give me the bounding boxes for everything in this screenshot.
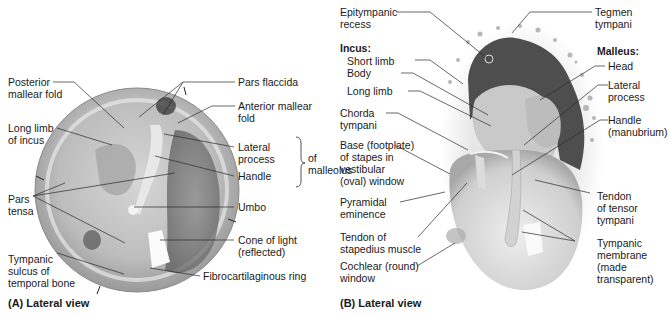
label-line: tympani: [595, 18, 632, 30]
label-cochlear-window: Cochlear (round) window: [340, 260, 419, 284]
label-epitympanic-recess: Epitympanic recess: [340, 6, 397, 30]
label-line: Epitympanic: [340, 6, 397, 18]
label-head: Head: [608, 60, 633, 72]
label-tegmen-tympani: Tegmen tympani: [595, 6, 632, 30]
caption-a: (A) Lateral view: [8, 297, 89, 309]
label-tympanic-membrane: Tympanic membrane (made transparent): [597, 237, 654, 285]
label-line: tympani: [597, 214, 638, 226]
heading-malleus: Malleus:: [597, 45, 639, 57]
label-line: sulcus of: [8, 265, 75, 277]
caption-b: (B) Lateral view: [340, 297, 421, 309]
label-posterior-mallear-fold: Posterior mallear fold: [8, 76, 62, 100]
label-line: (manubrium): [608, 126, 668, 138]
label-line: Long limb: [8, 122, 54, 134]
label-line: Tympanic: [597, 237, 654, 249]
label-long-limb: Long limb: [347, 85, 393, 97]
label-pyramidal-eminence: Pyramidal eminence: [340, 196, 387, 220]
label-long-limb-incus: Long limb of incus: [8, 122, 54, 146]
label-line: Tendon: [597, 190, 638, 202]
label-line: Cone of light: [238, 234, 297, 246]
label-line: transparent): [597, 273, 654, 285]
label-umbo: Umbo: [238, 201, 266, 213]
label-line: Anterior mallear: [238, 100, 312, 112]
label-line: Cochlear (round): [340, 260, 419, 272]
label-line: of stapes in: [340, 151, 414, 163]
label-anterior-mallear-fold: Anterior mallear fold: [238, 100, 312, 124]
label-line: of incus: [8, 134, 54, 146]
bracket: [296, 137, 305, 187]
label-line: Tendon of: [340, 231, 421, 243]
label-lateral-process-b: Lateral process: [608, 79, 645, 103]
label-line: Tegmen: [595, 6, 632, 18]
label-chorda-tympani: Chorda tympani: [340, 107, 377, 131]
label-line: (made: [597, 261, 654, 273]
label-tendon-stapedius: Tendon of stapedius muscle: [340, 231, 421, 255]
label-cone-of-light: Cone of light (reflected): [238, 234, 297, 258]
label-tendon-tensor: Tendon of tensor tympani: [597, 190, 638, 226]
label-line: eminence: [340, 208, 387, 220]
label-handle-a: Handle: [238, 170, 271, 182]
label-line: process: [238, 153, 275, 165]
heading-incus: Incus:: [340, 42, 371, 54]
middle-ear-drawing-b: [440, 22, 604, 290]
label-line: window: [340, 272, 419, 284]
label-line: tympani: [340, 119, 377, 131]
label-line: of tensor: [597, 202, 638, 214]
label-pars-tensa: Pars tensa: [8, 193, 34, 217]
label-short-limb: Short limb: [347, 55, 394, 67]
label-line: tensa: [8, 205, 34, 217]
label-pars-flaccida: Pars flaccida: [238, 76, 298, 88]
label-body: Body: [347, 67, 371, 79]
label-line: Posterior: [8, 76, 62, 88]
label-line: temporal bone: [8, 277, 75, 289]
label-line: Tympanic: [8, 253, 75, 265]
label-line: (reflected): [238, 246, 297, 258]
label-line: Lateral: [608, 79, 645, 91]
label-base-stapes: Base (footplate) of stapes in vestibular…: [340, 139, 414, 187]
label-line: process: [608, 91, 645, 103]
label-line: mallear fold: [8, 88, 62, 100]
label-line: Chorda: [340, 107, 377, 119]
label-line: stapedius muscle: [340, 243, 421, 255]
label-line: Pyramidal: [340, 196, 387, 208]
label-handle-b: Handle (manubrium): [608, 114, 668, 138]
label-lateral-process-a: Lateral process: [238, 141, 275, 165]
label-line: Pars: [8, 193, 34, 205]
label-line: (oval) window: [340, 175, 414, 187]
label-line: Base (footplate): [340, 139, 414, 151]
label-line: Handle: [608, 114, 668, 126]
label-fibrocartilaginous-ring: Fibrocartilaginous ring: [203, 270, 306, 282]
label-line: membrane: [597, 249, 654, 261]
label-line: Lateral: [238, 141, 275, 153]
label-tympanic-sulcus: Tympanic sulcus of temporal bone: [8, 253, 75, 289]
label-line: vestibular: [340, 163, 414, 175]
label-line: recess: [340, 18, 397, 30]
label-line: fold: [238, 112, 312, 124]
